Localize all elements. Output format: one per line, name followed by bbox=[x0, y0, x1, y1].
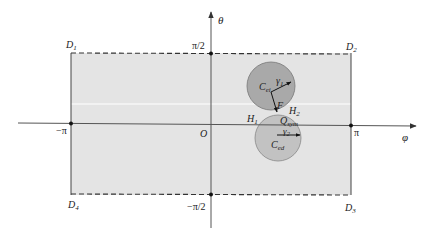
tick-dot-pi-half bbox=[209, 52, 213, 56]
svg-text:F: F bbox=[276, 100, 284, 111]
svg-text:D4: D4 bbox=[67, 199, 79, 212]
tick-label-pi: π bbox=[354, 127, 359, 138]
tick-label-minus-pi-half: −π/2 bbox=[187, 201, 205, 212]
label-f: F bbox=[276, 100, 284, 111]
svg-text:D1: D1 bbox=[65, 39, 77, 52]
tick-dot-minus-pi-half bbox=[209, 193, 213, 197]
theta-axis-label: θ bbox=[218, 14, 224, 26]
origin-label: O bbox=[200, 128, 207, 139]
phi-axis-label: φ bbox=[402, 131, 408, 143]
phase-plane-diagram: θ φ O −π π π/2 −π/2 D1 D2 D3 D4 Cei γ1 C… bbox=[0, 0, 423, 235]
svg-text:D3: D3 bbox=[344, 202, 356, 215]
corner-label-d3: D3 bbox=[344, 202, 356, 215]
tick-dot-pi bbox=[349, 124, 353, 128]
tick-label-minus-pi: −π bbox=[56, 125, 67, 136]
circle-upper-cei bbox=[247, 62, 295, 110]
corner-label-d2: D2 bbox=[345, 41, 357, 54]
diagram-canvas: θ φ O −π π π/2 −π/2 D1 D2 D3 D4 Cei γ1 C… bbox=[0, 0, 423, 235]
corner-label-d4: D4 bbox=[67, 199, 79, 212]
tick-label-pi-half: π/2 bbox=[192, 40, 205, 51]
tick-dot-minus-pi bbox=[69, 122, 73, 126]
svg-text:D2: D2 bbox=[345, 41, 357, 54]
corner-label-d1: D1 bbox=[65, 39, 77, 52]
